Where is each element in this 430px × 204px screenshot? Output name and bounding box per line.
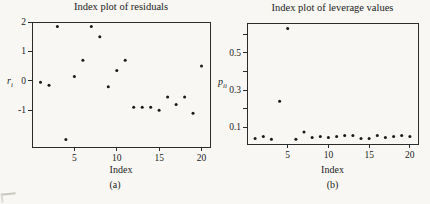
scanned-figure: 5101520210-151015200.10.30.5 Index plot … (0, 0, 430, 204)
chart-a-title: Index plot of residuals (32, 1, 210, 12)
svg-text:5: 5 (285, 150, 290, 160)
svg-text:10: 10 (112, 153, 122, 163)
chart-b-xlabel: Index (247, 164, 418, 175)
chart-a-ylabel-sub: i (11, 81, 13, 89)
chart-b-ylabel-sub: ii (223, 82, 227, 90)
scan-artifact (1, 192, 17, 203)
svg-text:0.3: 0.3 (229, 85, 241, 95)
chart-a-ylabel: ri (7, 75, 13, 91)
chart-a-xlabel: Index (32, 164, 210, 175)
svg-text:5: 5 (72, 153, 77, 163)
svg-text:2: 2 (21, 17, 26, 27)
svg-text:0.5: 0.5 (229, 48, 241, 58)
svg-text:15: 15 (154, 153, 164, 163)
chart-b-ylabel: pii (218, 76, 227, 92)
svg-text:0: 0 (21, 76, 26, 86)
svg-text:20: 20 (197, 153, 207, 163)
svg-text:1: 1 (21, 46, 26, 56)
chart-b-title: Index plot of leverage values (247, 2, 418, 13)
chart-b-caption: (b) (247, 179, 418, 190)
chart-a-caption: (a) (26, 179, 204, 190)
svg-text:15: 15 (364, 150, 374, 160)
svg-text:20: 20 (405, 150, 415, 160)
svg-text:-1: -1 (18, 105, 26, 115)
svg-text:0.1: 0.1 (229, 122, 241, 132)
svg-text:10: 10 (324, 150, 334, 160)
